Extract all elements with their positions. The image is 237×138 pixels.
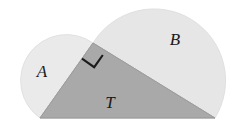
label-triangle: T: [105, 93, 116, 112]
geometry-diagram: A B T: [0, 0, 237, 138]
figure-canvas: A B T: [0, 0, 237, 138]
label-semicircle-a: A: [36, 62, 48, 81]
label-semicircle-b: B: [170, 30, 181, 49]
